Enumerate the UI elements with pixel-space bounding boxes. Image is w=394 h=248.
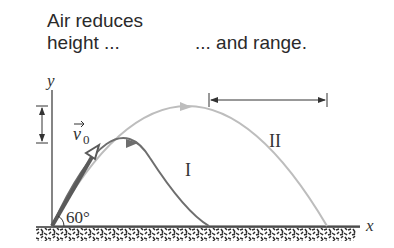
velocity-symbol: v [73, 124, 81, 144]
trajectory-ii-direction-arrow-icon [180, 102, 192, 111]
velocity-arrowhead-icon [86, 145, 99, 159]
height-difference-arrow [36, 106, 48, 143]
trajectory-i-label: I [185, 160, 191, 180]
angle-label: 60° [66, 208, 90, 227]
y-axis-label: y [45, 71, 55, 90]
velocity-label: v 0 [73, 121, 90, 147]
projectile-diagram: x y II I v 0 60° [0, 0, 394, 248]
range-difference-arrow [209, 93, 327, 107]
x-axis-label: x [365, 216, 374, 235]
trajectory-ii-label: II [269, 131, 281, 151]
ground [36, 227, 360, 241]
velocity-subscript: 0 [83, 132, 90, 147]
